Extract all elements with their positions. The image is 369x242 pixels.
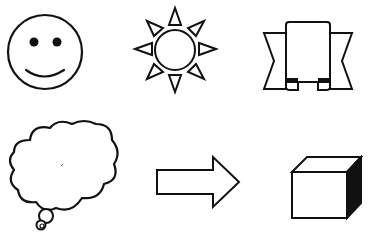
cube-icon bbox=[270, 140, 369, 230]
sun-icon bbox=[123, 0, 246, 110]
shapes-diagram bbox=[0, 0, 369, 242]
smiley-face-icon bbox=[0, 0, 123, 110]
thought-cloud-icon bbox=[0, 110, 130, 242]
right-arrow-icon bbox=[140, 140, 250, 220]
ribbon-banner-icon bbox=[246, 0, 369, 110]
